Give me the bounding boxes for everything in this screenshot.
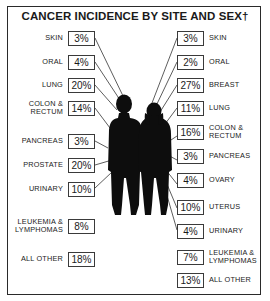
- female-value-skin: 3%: [177, 31, 204, 46]
- male-value-all-other: 18%: [68, 252, 95, 267]
- female-value-breast: 27%: [177, 78, 204, 93]
- male-site-label-oral: ORAL: [5, 58, 63, 66]
- male-value-leukemia-lymphomas: 8%: [68, 219, 95, 234]
- male-site-label-prostate: PROSTATE: [5, 161, 63, 169]
- female-value-colon-rectum: 16%: [177, 125, 204, 140]
- male-site-label-colon-rectum: COLON & RECTUM: [5, 100, 63, 116]
- female-value-oral: 2%: [177, 55, 204, 70]
- female-site-label-leukemia-text: LEUKEMIA & LYMPHOMAS: [209, 249, 263, 265]
- female-site-label-oral: ORAL: [209, 58, 269, 66]
- female-site-label-all-other: ALL OTHER: [209, 276, 269, 284]
- male-site-label-all-other: ALL OTHER: [5, 255, 63, 263]
- male-site-label-leukemia-lymphomas: LEUKEMIA & LYMPHOMAS: [5, 218, 63, 234]
- male-site-label-leukemia-text: LEUKEMIA & LYMPHOMAS: [11, 218, 63, 234]
- male-site-label-pancreas: PANCREAS: [5, 137, 63, 145]
- female-site-label-ovary: OVARY: [209, 176, 269, 184]
- female-site-label-urinary: URINARY: [209, 227, 269, 235]
- female-site-label-colon-rectum: COLON & RECTUM: [209, 124, 269, 140]
- female-value-uterus: 10%: [177, 200, 204, 215]
- male-site-label-urinary: URINARY: [5, 185, 63, 193]
- female-value-lung: 11%: [177, 101, 204, 116]
- female-site-label-colon-rectum-text: COLON & RECTUM: [209, 124, 249, 140]
- male-site-label-skin: SKIN: [5, 34, 63, 42]
- female-value-pancreas: 3%: [177, 149, 204, 164]
- female-value-all-other: 13%: [177, 273, 204, 288]
- male-value-colon-rectum: 14%: [68, 101, 95, 116]
- female-value-ovary: 4%: [177, 173, 204, 188]
- female-site-label-uterus: UTERUS: [209, 203, 269, 211]
- female-silhouette: [138, 103, 172, 216]
- male-site-label-colon-rectum-text: COLON & RECTUM: [25, 100, 63, 116]
- male-silhouette: [108, 95, 143, 216]
- male-site-label-lung: LUNG: [5, 81, 63, 89]
- male-value-pancreas: 3%: [68, 134, 95, 149]
- male-value-lung: 20%: [68, 78, 95, 93]
- female-site-label-breast: BREAST: [209, 81, 269, 89]
- female-site-label-lung: LUNG: [209, 104, 269, 112]
- female-value-leukemia-lymphomas: 7%: [177, 250, 204, 265]
- male-value-skin: 3%: [68, 31, 95, 46]
- male-value-urinary: 10%: [68, 182, 95, 197]
- male-value-oral: 4%: [68, 55, 95, 70]
- female-site-label-skin: SKIN: [209, 34, 269, 42]
- female-site-label-pancreas: PANCREAS: [209, 152, 269, 160]
- male-value-prostate: 20%: [68, 158, 95, 173]
- female-value-urinary: 4%: [177, 224, 204, 239]
- female-site-label-leukemia-lymphomas: LEUKEMIA & LYMPHOMAS: [209, 249, 269, 265]
